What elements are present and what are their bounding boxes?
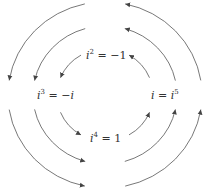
cycle-arc <box>129 112 150 135</box>
cycle-arc <box>129 55 150 78</box>
label-i-fourth: i4 = 1 <box>90 133 121 144</box>
cycle-arc <box>61 55 82 78</box>
cycle-arc <box>125 29 176 81</box>
cycle-arc <box>125 110 201 187</box>
cycle-arc <box>125 4 201 81</box>
cycle-arc <box>125 109 176 161</box>
cycle-arc <box>9 110 85 187</box>
cycle-arc <box>9 4 85 81</box>
cycle-arc <box>35 29 86 81</box>
label-i-equals-i-fifth: i = i5 <box>151 90 179 101</box>
label-i-cubed: i3 = −i <box>37 90 74 101</box>
cycle-arc <box>61 112 82 135</box>
cycle-arc <box>35 109 86 161</box>
label-i-squared: i2 = −1 <box>86 50 126 61</box>
powers-of-i-cycle-diagram <box>0 0 212 193</box>
